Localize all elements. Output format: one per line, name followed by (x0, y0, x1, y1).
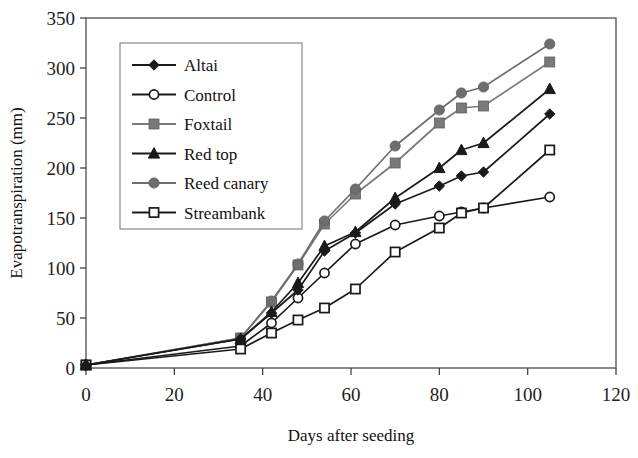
data-point (391, 247, 400, 256)
data-point (435, 223, 444, 232)
data-point (478, 82, 488, 92)
legend-marker (149, 119, 159, 129)
data-point (390, 192, 401, 203)
data-point (456, 171, 466, 181)
data-point (456, 88, 466, 98)
x-tick-label-100: 100 (513, 384, 542, 405)
data-point (267, 318, 276, 327)
chart-figure: 050100150200250300350020406080100120Days… (0, 0, 638, 458)
legend-marker (149, 208, 158, 217)
data-point (319, 240, 330, 251)
x-tick-label-120: 120 (602, 384, 631, 405)
x-axis-title: Days after seeding (288, 426, 415, 445)
data-point (545, 145, 554, 154)
y-tick-label-50: 50 (56, 308, 75, 329)
legend-marker (149, 90, 158, 99)
data-point (320, 268, 329, 277)
data-point (435, 211, 444, 220)
evapotranspiration-line-chart: 050100150200250300350020406080100120Days… (0, 0, 638, 458)
data-point (293, 315, 302, 324)
data-point (456, 103, 466, 113)
data-point (391, 220, 400, 229)
y-axis-title: Evapotranspiration (mm) (7, 107, 26, 278)
data-point (434, 162, 445, 173)
data-point (434, 105, 444, 115)
y-tick-label-0: 0 (66, 358, 76, 379)
data-point (320, 303, 329, 312)
y-tick-label-250: 250 (47, 108, 76, 129)
data-point (266, 296, 276, 306)
x-tick-label-20: 20 (165, 384, 184, 405)
legend-label: Foxtail (184, 115, 232, 134)
data-point (236, 344, 245, 353)
data-point (351, 239, 360, 248)
y-tick-label-200: 200 (47, 158, 76, 179)
y-tick-label-150: 150 (47, 208, 76, 229)
legend-marker (149, 178, 159, 188)
legend-label: Control (184, 86, 236, 105)
data-point (479, 101, 489, 111)
chart-legend: AltaiControlFoxtailRed topReed canaryStr… (120, 43, 302, 229)
data-point (479, 203, 488, 212)
data-point (319, 216, 329, 226)
data-point (478, 137, 489, 148)
y-tick-label-100: 100 (47, 258, 76, 279)
legend-label: Streambank (184, 204, 266, 223)
legend-label: Altai (184, 56, 218, 75)
data-point (293, 259, 303, 269)
y-tick-label-350: 350 (47, 8, 76, 29)
data-point (545, 192, 554, 201)
data-point (390, 158, 400, 168)
x-tick-label-40: 40 (253, 384, 272, 405)
data-point (390, 141, 400, 151)
data-point (351, 284, 360, 293)
data-point (434, 118, 444, 128)
data-point (350, 184, 360, 194)
data-point (267, 328, 276, 337)
data-point (434, 181, 444, 191)
data-point (457, 208, 466, 217)
x-tick-label-80: 80 (430, 384, 449, 405)
legend-label: Reed canary (184, 174, 269, 193)
data-point (545, 39, 555, 49)
data-point (544, 83, 555, 94)
x-tick-label-0: 0 (81, 384, 91, 405)
data-point (545, 57, 555, 67)
x-tick-label-60: 60 (342, 384, 361, 405)
legend-label: Red top (184, 145, 237, 164)
y-tick-label-300: 300 (47, 58, 76, 79)
